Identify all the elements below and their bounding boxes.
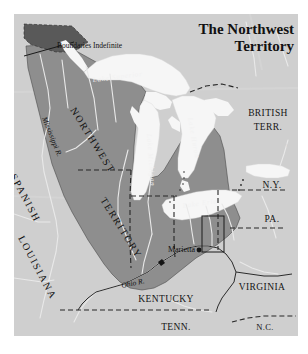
state-label-pennsylvania: PA. — [265, 214, 280, 224]
boundaries-indefinite-label: Boundaries Indefinite — [57, 41, 123, 50]
state-label-kentucky: KENTUCKY — [138, 294, 193, 304]
state-label-virginia: VIRGINIA — [239, 282, 285, 292]
state-label-tennessee: TENN. — [161, 322, 191, 332]
northwest-territory-map-figure: The Northwest Territory Boundaries Indef… — [0, 0, 308, 354]
map-title-line-2: Territory — [235, 38, 295, 54]
map-canvas: The Northwest Territory Boundaries Indef… — [0, 0, 308, 354]
map-graphic: The Northwest Territory Boundaries Indef… — [0, 0, 308, 354]
map-title-line-1: The Northwest — [199, 21, 294, 37]
state-label-new-york: N.Y. — [263, 180, 282, 190]
city-label-marietta: Marietta — [168, 245, 196, 254]
marietta-city-dot — [197, 248, 202, 253]
state-label-north-carolina: N.C. — [256, 322, 273, 332]
region-label-british-terr-line1: BRITISH — [248, 108, 288, 118]
region-label-british-terr-line2: TERR. — [254, 122, 283, 132]
